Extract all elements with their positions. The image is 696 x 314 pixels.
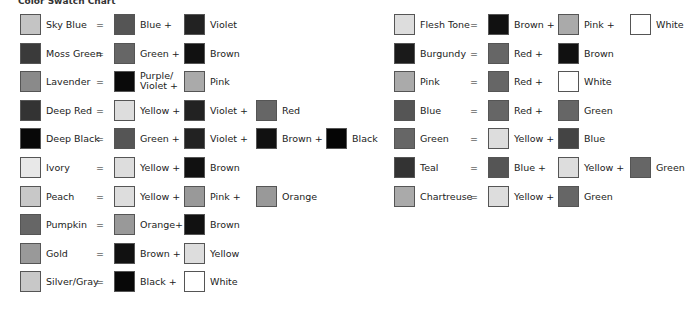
result-label: Deep Red <box>46 105 92 116</box>
result-swatch <box>394 100 415 121</box>
ingredient-swatch <box>488 128 509 149</box>
ingredient-swatch <box>488 186 509 207</box>
equals-sign: = <box>470 105 478 116</box>
equals-sign: = <box>96 219 104 230</box>
equals-sign: = <box>470 162 478 173</box>
ingredient-label: Black + <box>140 276 177 287</box>
result-swatch <box>20 271 41 292</box>
result-swatch <box>20 186 41 207</box>
result-label: Gold <box>46 248 68 259</box>
ingredient-swatch <box>184 14 205 35</box>
result-label: Chartreuse <box>420 191 472 202</box>
result-label: Pumpkin <box>46 219 87 230</box>
ingredient-label: Green <box>584 191 613 202</box>
ingredient-label: Pink + <box>584 19 615 30</box>
ingredient-swatch <box>114 271 135 292</box>
ingredient-swatch <box>114 71 135 92</box>
ingredient-label: Red + <box>514 105 543 116</box>
equals-sign: = <box>96 76 104 87</box>
ingredient-label: White <box>584 76 612 87</box>
ingredient-swatch <box>184 100 205 121</box>
ingredient-label: Yellow + <box>514 133 554 144</box>
ingredient-swatch <box>256 128 277 149</box>
result-label: Peach <box>46 191 74 202</box>
result-label: Blue <box>420 105 441 116</box>
ingredient-swatch <box>630 157 651 178</box>
ingredient-swatch <box>326 128 347 149</box>
ingredient-label: Pink <box>210 76 230 87</box>
ingredient-swatch <box>114 186 135 207</box>
equals-sign: = <box>96 276 104 287</box>
result-swatch <box>20 157 41 178</box>
result-swatch <box>20 43 41 64</box>
result-swatch <box>394 43 415 64</box>
ingredient-swatch <box>558 100 579 121</box>
ingredient-swatch <box>114 243 135 264</box>
ingredient-label: Violet + <box>210 105 248 116</box>
ingredient-swatch <box>114 214 135 235</box>
chart-title: Color Swatch Chart <box>18 0 116 6</box>
ingredient-label: Yellow <box>210 248 239 259</box>
ingredient-swatch <box>256 100 277 121</box>
ingredient-label: Purple/Violet + <box>140 71 178 91</box>
ingredient-label: Yellow + <box>584 162 624 173</box>
ingredient-label: Brown <box>210 219 240 230</box>
ingredient-swatch <box>184 214 205 235</box>
result-label: Pink <box>420 76 440 87</box>
ingredient-label: Red + <box>514 48 543 59</box>
ingredient-label: White <box>210 276 238 287</box>
ingredient-label: Green + <box>140 133 180 144</box>
result-label: Sky Blue <box>46 19 87 30</box>
ingredient-label: Violet <box>210 19 237 30</box>
result-label: Teal <box>420 162 439 173</box>
ingredient-swatch <box>558 157 579 178</box>
equals-sign: = <box>470 48 478 59</box>
result-swatch <box>394 157 415 178</box>
result-swatch <box>394 71 415 92</box>
ingredient-label: Brown + <box>140 248 181 259</box>
result-swatch <box>20 100 41 121</box>
equals-sign: = <box>470 133 478 144</box>
result-label: Deep Black <box>46 133 100 144</box>
ingredient-swatch <box>558 186 579 207</box>
result-swatch <box>20 14 41 35</box>
ingredient-label: Blue + <box>514 162 546 173</box>
ingredient-swatch <box>184 128 205 149</box>
ingredient-swatch <box>114 43 135 64</box>
equals-sign: = <box>470 76 478 87</box>
ingredient-label: Brown + <box>282 133 323 144</box>
equals-sign: = <box>96 19 104 30</box>
result-label: Ivory <box>46 162 70 173</box>
result-swatch <box>20 243 41 264</box>
ingredient-swatch <box>630 14 651 35</box>
ingredient-label: Pink + <box>210 191 241 202</box>
ingredient-label: Red + <box>514 76 543 87</box>
equals-sign: = <box>470 19 478 30</box>
ingredient-swatch <box>558 14 579 35</box>
result-swatch <box>394 186 415 207</box>
equals-sign: = <box>96 48 104 59</box>
ingredient-swatch <box>184 271 205 292</box>
ingredient-swatch <box>488 71 509 92</box>
ingredient-swatch <box>558 43 579 64</box>
ingredient-swatch <box>558 128 579 149</box>
equals-sign: = <box>96 162 104 173</box>
ingredient-label: Black <box>352 133 378 144</box>
ingredient-swatch <box>488 100 509 121</box>
ingredient-label: Brown <box>584 48 614 59</box>
ingredient-label: Violet + <box>210 133 248 144</box>
result-label: Burgundy <box>420 48 466 59</box>
ingredient-label: White <box>656 19 684 30</box>
result-label: Silver/Gray <box>46 276 99 287</box>
ingredient-label: Blue <box>584 133 605 144</box>
ingredient-label: Orange+ <box>140 219 183 230</box>
ingredient-label: Green <box>584 105 613 116</box>
ingredient-label: Brown + <box>514 19 555 30</box>
result-label: Flesh Tone <box>420 19 470 30</box>
ingredient-label: Brown <box>210 48 240 59</box>
ingredient-swatch <box>114 100 135 121</box>
ingredient-label: Red <box>282 105 300 116</box>
ingredient-label: Green + <box>140 48 180 59</box>
result-swatch <box>20 214 41 235</box>
ingredient-swatch <box>558 71 579 92</box>
